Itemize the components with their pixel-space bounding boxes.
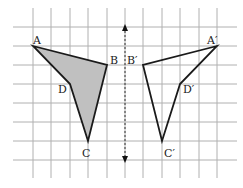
vertex-label-b: B <box>110 54 118 67</box>
vertex-label-c-prime: C′ <box>164 147 175 160</box>
vertex-label-c: C <box>82 147 90 160</box>
reflection-diagram: ABCDA′B′C′D′ <box>0 0 243 188</box>
vertex-label-d-prime: D′ <box>183 83 195 96</box>
vertex-label-b-prime: B′ <box>127 54 138 67</box>
vertex-label-a-prime: A′ <box>206 34 218 47</box>
vertex-label-a: A <box>32 34 42 47</box>
vertex-label-d: D <box>58 83 67 96</box>
